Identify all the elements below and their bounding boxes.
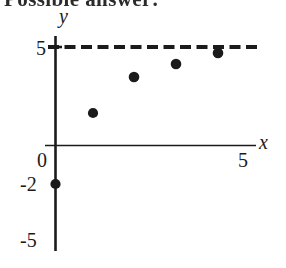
data-point xyxy=(171,59,182,70)
origin-tick-label-0: 0 xyxy=(37,150,47,170)
data-point xyxy=(88,108,98,118)
y-tick-label-5: 5 xyxy=(36,38,46,58)
y-axis-label: y xyxy=(59,6,68,26)
x-axis-label: x xyxy=(259,132,268,152)
y-tick-label-minus-2: -2 xyxy=(20,174,37,194)
scatter-plot-figure: y x 5 0 5 -2 -5 xyxy=(0,0,286,268)
x-tick-label-5: 5 xyxy=(238,150,248,170)
data-point xyxy=(50,179,60,189)
data-point xyxy=(213,48,224,59)
y-tick-label-minus-5: -5 xyxy=(20,230,37,250)
data-point xyxy=(129,72,140,83)
